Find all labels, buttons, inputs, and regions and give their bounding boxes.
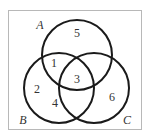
region-a-and-b: 1 (51, 56, 57, 70)
region-b-only-upper: 2 (34, 82, 40, 96)
set-label-b: B (19, 113, 27, 127)
region-a-only: 5 (74, 26, 80, 40)
region-a-b-c: 3 (74, 72, 80, 86)
set-label-a: A (35, 18, 44, 32)
region-c-only: 6 (109, 90, 115, 104)
set-label-c: C (123, 113, 132, 127)
region-b-only-lower: 4 (52, 96, 58, 110)
venn-diagram: A B C 5 1 3 2 4 6 (0, 0, 150, 137)
